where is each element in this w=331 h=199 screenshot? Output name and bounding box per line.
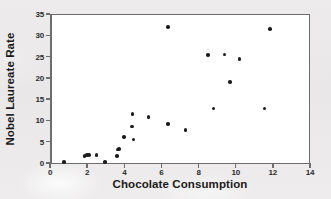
data-point: [95, 153, 99, 157]
data-point: [228, 80, 232, 84]
y-tick-label: 30: [36, 31, 45, 40]
data-point: [115, 154, 119, 158]
data-point: [184, 128, 188, 132]
y-tick-label: 5: [40, 137, 44, 146]
y-tick-label: 15: [36, 95, 45, 104]
data-point: [206, 53, 210, 57]
x-tick-label: 4: [122, 168, 126, 177]
x-axis-title: Chocolate Consumption: [50, 178, 310, 190]
data-point: [103, 160, 107, 164]
x-tick-label: 0: [48, 168, 52, 177]
data-point: [130, 125, 134, 129]
y-tick-label: 35: [36, 10, 45, 19]
x-tick-label: 6: [159, 168, 163, 177]
y-tick-mark: [46, 98, 50, 100]
data-point: [122, 135, 126, 139]
scatter-plot-screenshot: 05101520253035 02468101214 Nobel Laureat…: [0, 0, 331, 199]
x-tick-label: 10: [231, 168, 240, 177]
y-tick-mark: [46, 35, 50, 37]
data-point: [166, 25, 170, 29]
y-tick-mark: [46, 56, 50, 58]
data-point: [238, 57, 242, 61]
x-tick-label: 2: [85, 168, 89, 177]
y-axis-title: Nobel Laureate Rate: [2, 14, 18, 163]
y-tick-mark: [46, 13, 50, 15]
data-point: [147, 115, 151, 119]
plot-area: [50, 14, 310, 163]
y-tick-mark: [46, 77, 50, 79]
data-point: [62, 160, 66, 164]
y-axis-line: [50, 14, 52, 164]
x-tick-label: 12: [269, 168, 278, 177]
x-tick-label: 14: [306, 168, 315, 177]
y-tick-mark: [46, 120, 50, 122]
y-tick-label: 20: [36, 73, 45, 82]
data-point: [166, 122, 170, 126]
data-point: [117, 147, 121, 151]
y-tick-label: 10: [36, 116, 45, 125]
y-tick-label: 25: [36, 52, 45, 61]
data-point: [87, 153, 91, 157]
y-axis-title-text: Nobel Laureate Rate: [4, 32, 16, 145]
data-point: [268, 27, 272, 31]
y-tick-label: 0: [40, 159, 44, 168]
x-tick-label: 8: [196, 168, 200, 177]
chart-figure: 05101520253035 02468101214 Nobel Laureat…: [0, 0, 331, 199]
y-tick-mark: [46, 141, 50, 143]
